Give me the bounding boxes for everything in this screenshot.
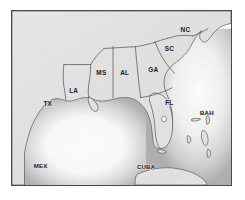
bahamas-island-5 (187, 136, 191, 143)
map-canvas: TX LA MS AL GA SC NC FL BAH CUBA MEX (12, 11, 231, 185)
label-ga: GA (148, 66, 158, 73)
label-cuba: CUBA (137, 164, 156, 170)
label-tx: TX (43, 100, 52, 107)
label-ms: MS (96, 69, 107, 76)
label-al: AL (120, 69, 129, 76)
label-nc: NC (181, 26, 191, 33)
label-fl: FL (165, 99, 173, 106)
bahamas-island-2 (206, 115, 209, 124)
lake-okeechobee (162, 116, 167, 122)
label-sc: SC (165, 45, 174, 52)
bahamas-island-4 (207, 149, 210, 157)
label-mex: MEX (34, 163, 48, 169)
label-la: LA (69, 87, 78, 94)
label-bah: BAH (200, 110, 214, 116)
map-figure: TX LA MS AL GA SC NC FL BAH CUBA MEX (11, 10, 232, 186)
